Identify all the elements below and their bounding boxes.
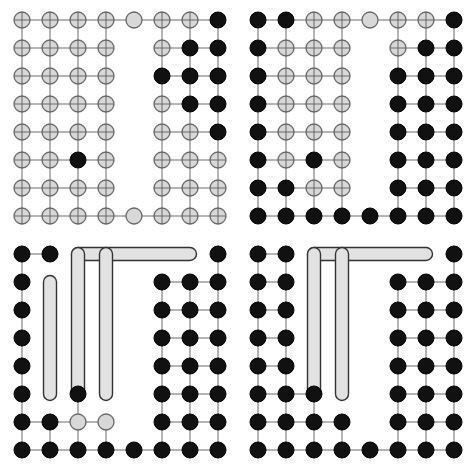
node-dark-r7-c0 — [14, 442, 30, 458]
node-dark-r3-c7 — [446, 330, 462, 346]
node-dark-r1-c0 — [14, 274, 30, 290]
node-light-r5-c6 — [182, 152, 198, 168]
bar-layer — [44, 248, 197, 401]
node-light-r4-c6 — [182, 124, 198, 140]
node-dark-r6-c1 — [278, 414, 294, 430]
node-light-r3-c5 — [154, 96, 170, 112]
bar-tooth-bar-1 — [308, 248, 321, 401]
node-dark-r5-c0 — [14, 386, 30, 402]
bar-spine-bar — [308, 248, 433, 261]
node-dark-r7-c7 — [446, 442, 462, 458]
node-dark-r4-c5 — [390, 358, 406, 374]
node-dark-r3-c1 — [278, 330, 294, 346]
node-light-r1-c5 — [390, 40, 406, 56]
node-dark-r6-c7 — [210, 414, 226, 430]
node-dark-r3-c5 — [154, 330, 170, 346]
node-dark-r7-c1 — [278, 442, 294, 458]
figure-board — [0, 0, 472, 467]
node-dark-r5-c6 — [182, 386, 198, 402]
node-light-r3-c3 — [334, 96, 350, 112]
panel-bottom-left — [0, 234, 236, 467]
node-light-r2-c3 — [334, 68, 350, 84]
node-dark-r6-c6 — [182, 414, 198, 430]
node-dark-r7-c3 — [334, 208, 350, 224]
node-light-r6-c2 — [70, 180, 86, 196]
node-light-r1-c1 — [278, 40, 294, 56]
node-dark-r2-c0 — [250, 68, 266, 84]
node-light-r6-c3 — [98, 414, 114, 430]
node-dark-r5-c2 — [70, 386, 86, 402]
node-light-r3-c1 — [278, 96, 294, 112]
node-light-r7-c7 — [210, 208, 226, 224]
node-light-r2-c3 — [98, 68, 114, 84]
node-dark-r1-c0 — [250, 274, 266, 290]
node-dark-r5-c5 — [390, 152, 406, 168]
node-dark-r3-c7 — [210, 96, 226, 112]
node-light-r4-c2 — [70, 124, 86, 140]
panel-top-right-canvas — [236, 0, 472, 233]
node-dark-r6-c0 — [14, 414, 30, 430]
node-light-r2-c2 — [70, 68, 86, 84]
node-light-r6-c2 — [70, 414, 86, 430]
node-dark-r6-c0 — [250, 414, 266, 430]
panel-bottom-right — [236, 234, 472, 467]
node-dark-r7-c0 — [250, 208, 266, 224]
node-dark-r4-c0 — [250, 124, 266, 140]
node-light-r6-c2 — [306, 180, 322, 196]
node-dark-r2-c0 — [14, 302, 30, 318]
panel-top-right — [236, 0, 472, 233]
node-dark-r3-c7 — [446, 96, 462, 112]
node-light-r7-c4 — [126, 208, 142, 224]
node-light-r6-c6 — [182, 180, 198, 196]
bar-tooth-bar-1 — [44, 276, 57, 401]
node-dark-r5-c6 — [418, 152, 434, 168]
node-dark-r0-c0 — [14, 246, 30, 262]
node-light-r3-c3 — [98, 96, 114, 112]
node-light-r0-c0 — [14, 12, 30, 28]
node-dark-r5-c2 — [70, 152, 86, 168]
node-dark-r4-c7 — [446, 124, 462, 140]
panel-bottom-left-canvas — [0, 234, 236, 467]
node-dark-r5-c2 — [306, 386, 322, 402]
node-dark-r3-c6 — [418, 96, 434, 112]
node-dark-r3-c5 — [390, 96, 406, 112]
node-dark-r5-c5 — [154, 386, 170, 402]
node-light-r4-c0 — [14, 124, 30, 140]
node-light-r5-c0 — [14, 152, 30, 168]
node-dark-r2-c0 — [250, 302, 266, 318]
node-light-r0-c5 — [154, 12, 170, 28]
node-dark-r0-c0 — [250, 246, 266, 262]
node-dark-r7-c1 — [278, 208, 294, 224]
node-dark-r4-c5 — [154, 358, 170, 374]
node-dark-r0-c7 — [210, 12, 226, 28]
node-light-r6-c3 — [98, 180, 114, 196]
node-dark-r0-c7 — [210, 246, 226, 262]
node-dark-r5-c1 — [278, 386, 294, 402]
bar-tooth-bar-3 — [100, 248, 113, 401]
node-dark-r6-c1 — [278, 180, 294, 196]
node-dark-r2-c6 — [418, 302, 434, 318]
node-dark-r5-c6 — [418, 386, 434, 402]
node-dark-r0-c1 — [278, 12, 294, 28]
node-light-r4-c2 — [306, 124, 322, 140]
node-dark-r3-c6 — [182, 330, 198, 346]
node-dark-r3-c0 — [250, 96, 266, 112]
node-dark-r2-c6 — [418, 68, 434, 84]
node-dark-r3-c6 — [182, 96, 198, 112]
node-light-r5-c7 — [210, 152, 226, 168]
node-dark-r1-c6 — [418, 274, 434, 290]
node-dark-r4-c7 — [210, 124, 226, 140]
bar-tooth-bar-2 — [336, 248, 349, 401]
node-light-r2-c2 — [306, 68, 322, 84]
node-dark-r6-c7 — [446, 414, 462, 430]
node-light-r0-c2 — [306, 12, 322, 28]
node-dark-r7-c5 — [390, 442, 406, 458]
node-light-r4-c3 — [334, 124, 350, 140]
node-light-r3-c1 — [42, 96, 58, 112]
node-dark-r7-c2 — [306, 208, 322, 224]
node-dark-r7-c2 — [306, 442, 322, 458]
node-light-r0-c5 — [390, 12, 406, 28]
node-dark-r7-c5 — [390, 208, 406, 224]
node-dark-r4-c0 — [14, 358, 30, 374]
node-dark-r6-c5 — [390, 180, 406, 196]
